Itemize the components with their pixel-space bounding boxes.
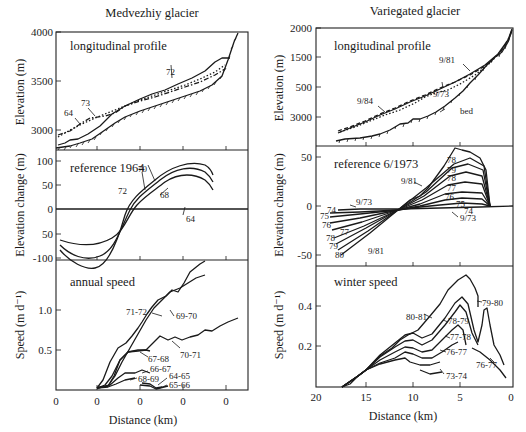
svg-text:76-77: 76-77: [446, 347, 467, 357]
label-9-84: 9/84: [357, 96, 374, 106]
svg-text:0: 0: [94, 395, 100, 407]
variegated-speed-curves: [342, 275, 506, 387]
svg-text:0: 0: [53, 395, 59, 407]
svg-text:0: 0: [180, 395, 186, 407]
medvezhiy-xlabel: Distance (km): [109, 413, 177, 427]
label-71-72: 71-72: [126, 307, 147, 317]
svg-text:1.0: 1.0: [38, 304, 52, 316]
variegated-elev-change-title: reference 6/1973: [334, 157, 418, 171]
svg-text:50: 50: [42, 179, 54, 191]
medvezhiy-elev-change-ylabel: Elevation change (m): [13, 153, 27, 256]
medvezhiy-profile-ylabel: Elevation (m): [13, 59, 27, 125]
label-bed: bed: [460, 106, 473, 116]
medvezhiy-speed-title: annual speed: [70, 275, 136, 289]
left-column-title: Medvezhiy glacier: [105, 6, 199, 20]
medvezhiy-elev-change-title: reference 1964: [70, 161, 145, 175]
label-9-73-profile: 9/73: [433, 89, 450, 99]
medvezhiy-frames: [56, 32, 248, 390]
svg-text:100: 100: [37, 155, 54, 167]
svg-text:76: 76: [322, 220, 332, 230]
svg-text:20: 20: [311, 391, 323, 403]
svg-text:50: 50: [301, 151, 313, 163]
svg-text:3500: 3500: [31, 75, 54, 87]
svg-text:0: 0: [48, 203, 54, 215]
label-68: 68: [160, 190, 170, 200]
svg-text:-50: -50: [297, 249, 312, 261]
label-67-68: 67-68: [148, 354, 169, 364]
label-9-81-profile: 9/81: [439, 55, 455, 65]
svg-text:500: 500: [296, 81, 313, 93]
svg-text:0: 0: [223, 395, 229, 407]
label-72: 72: [166, 67, 175, 77]
svg-text:0: 0: [307, 200, 313, 212]
svg-text:9/81: 9/81: [401, 176, 417, 186]
svg-text:76: 76: [445, 192, 455, 202]
variegated-speed-ylabel: Speed (m d⁻¹): [272, 291, 286, 360]
svg-text:15: 15: [361, 391, 373, 403]
svg-text:0: 0: [508, 391, 514, 403]
svg-text:76-77: 76-77: [476, 360, 497, 370]
svg-text:4000: 4000: [31, 26, 54, 38]
label-73: 73: [81, 98, 91, 108]
svg-text:1500: 1500: [290, 51, 313, 63]
svg-text:3000: 3000: [290, 111, 313, 123]
svg-text:9/73: 9/73: [356, 197, 373, 207]
svg-text:-100: -100: [33, 252, 54, 264]
svg-text:0.2: 0.2: [298, 340, 312, 352]
label-70: 70: [138, 164, 148, 174]
svg-text:0.4: 0.4: [298, 300, 312, 312]
svg-text:73-74: 73-74: [446, 371, 467, 381]
right-column-title: Variegated glacier: [370, 4, 461, 18]
svg-text:80: 80: [335, 250, 345, 260]
label-64: 64: [64, 108, 74, 118]
variegated-profile-ylabel: Elevation (m): [272, 55, 286, 121]
medvezhiy-elev-change-curves: [56, 163, 248, 268]
svg-text:9/81: 9/81: [368, 246, 384, 256]
svg-text:50: 50: [42, 228, 54, 240]
figure-canvas: Medvezhiy glacier longitudinal profile 4…: [0, 0, 526, 432]
svg-text:3000: 3000: [31, 124, 54, 136]
svg-text:10: 10: [408, 391, 420, 403]
variegated-elev-change-ylabel: Elevation change (m): [272, 153, 286, 256]
variegated-speed-title: winter speed: [334, 275, 398, 289]
variegated-speed-labels: 80-81 79-80 78-79 77-78 76-77 76-77 73-7…: [406, 298, 503, 381]
svg-text:2000: 2000: [290, 22, 313, 34]
variegated-profile-title: longitudinal profile: [334, 39, 431, 53]
svg-text:79-80: 79-80: [482, 298, 503, 308]
svg-text:77-78: 77-78: [450, 332, 471, 342]
label-72-ref: 72: [118, 186, 127, 196]
svg-text:9/73: 9/73: [460, 213, 477, 223]
medvezhiy-profile-title: longitudinal profile: [70, 39, 167, 53]
svg-text:78: 78: [447, 173, 457, 183]
svg-text:0.5: 0.5: [38, 344, 52, 356]
label-70-71: 70-71: [180, 350, 201, 360]
svg-text:5: 5: [457, 391, 463, 403]
svg-text:77: 77: [340, 227, 350, 237]
svg-text:80-81: 80-81: [406, 312, 427, 322]
svg-text:78: 78: [447, 155, 457, 165]
medvezhiy-speed-ylabel: Speed (m d⁻¹): [13, 291, 27, 360]
svg-text:78-79: 78-79: [448, 316, 469, 326]
variegated-xlabel: Distance (km): [369, 409, 437, 423]
label-65-66: 65-66: [169, 380, 190, 390]
label-69-70: 69-70: [176, 311, 197, 321]
svg-text:0: 0: [137, 395, 143, 407]
label-68-69: 68-69: [138, 374, 159, 384]
label-64-ref: 64: [186, 214, 196, 224]
